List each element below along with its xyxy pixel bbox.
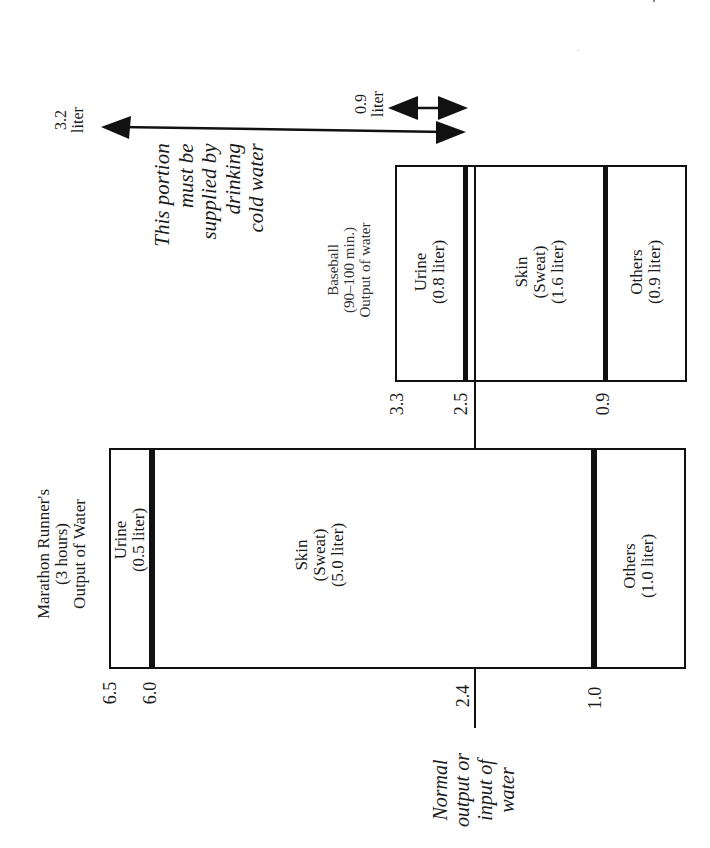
scan-speck [653,0,655,2]
scan-speck [578,50,579,51]
excess-arrows [0,0,710,848]
baseball-excess-value: 0.9 liter [353,91,387,117]
cold-water-annotation: This portion must be supplied by drinkin… [151,143,269,246]
marathon-excess-arrow-icon [101,116,466,144]
baseball-excess-arrow-icon [388,96,468,120]
marathon-excess-value: 3.2 liter [53,107,87,133]
